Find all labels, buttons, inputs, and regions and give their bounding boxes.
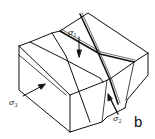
sigma3-label: σ3 [9, 98, 18, 108]
fault-planes [19, 13, 135, 122]
panel-label: b [134, 113, 142, 130]
sigma1-label: σ1 [68, 28, 77, 38]
figure: σ1 σ3 σ2 b [0, 0, 155, 139]
sigma2-label: σ2 [113, 114, 122, 124]
sigma3-arrow [23, 84, 45, 96]
block-diagram: σ1 σ3 σ2 b [0, 0, 155, 139]
block-outline [19, 13, 148, 132]
